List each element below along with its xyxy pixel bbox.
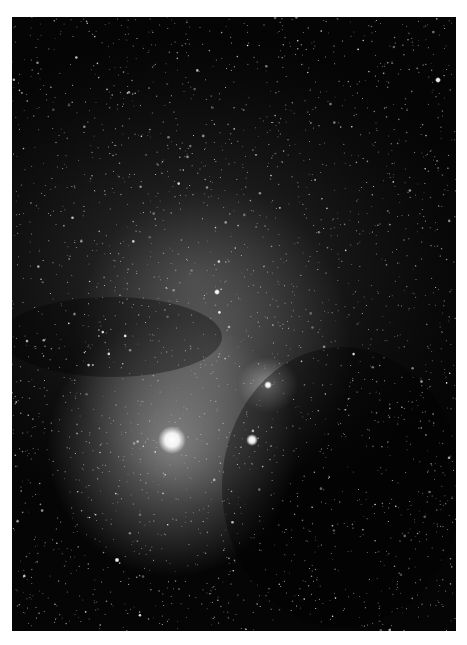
star-top-right — [435, 77, 441, 83]
cluster-star — [264, 381, 272, 389]
bright-star-secondary — [246, 434, 258, 446]
star-upper-mid — [214, 289, 220, 295]
star-field — [12, 17, 456, 631]
star-lower-left — [115, 558, 120, 563]
bright-star-main — [158, 426, 186, 454]
astrophotograph — [12, 17, 456, 631]
